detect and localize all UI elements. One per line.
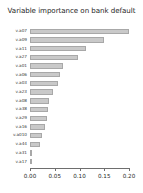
bar: [30, 81, 58, 86]
bar: [30, 89, 53, 94]
plot-area: [30, 27, 129, 166]
bar-row: [30, 89, 129, 94]
bar-row: [30, 46, 129, 51]
x-axis-tick-mark: [104, 168, 105, 171]
bar-row: [30, 142, 129, 147]
y-axis-label: v.a07: [16, 29, 27, 33]
variable-importance-chart: Variable importance on bank default v.a0…: [0, 0, 143, 193]
bar-row: [30, 116, 129, 121]
bar: [30, 63, 63, 68]
bar: [30, 107, 48, 112]
bar-row: [30, 124, 129, 129]
bar-row: [30, 55, 129, 60]
x-axis-tick-label: 0.00: [24, 173, 36, 179]
bar: [30, 159, 32, 164]
y-axis-label: v.a010: [13, 133, 27, 137]
x-axis-tick-mark: [80, 168, 81, 171]
bar: [30, 133, 42, 138]
bar: [30, 150, 32, 155]
bar-row: [30, 159, 129, 164]
bar: [30, 46, 86, 51]
y-axis-label: v.a01: [16, 64, 27, 68]
bar: [30, 55, 78, 60]
x-axis-tick-label: 0.15: [98, 173, 110, 179]
y-axis-label: v.a44: [16, 142, 27, 146]
y-axis-label: v.a03: [16, 81, 27, 85]
y-axis-label: v.a38: [16, 107, 27, 111]
bar-row: [30, 133, 129, 138]
y-axis-label: v.a29: [16, 116, 27, 120]
bar: [30, 98, 49, 103]
bar: [30, 124, 45, 129]
y-axis-label: v.a31: [16, 151, 27, 155]
y-axis-label: v.a11: [16, 47, 27, 51]
x-axis-tick-label: 0.10: [73, 173, 85, 179]
bar-row: [30, 63, 129, 68]
bar-row: [30, 150, 129, 155]
bar-row: [30, 107, 129, 112]
x-axis-tick-mark: [129, 168, 130, 171]
y-axis-label: v.a17: [16, 160, 27, 164]
bar: [30, 116, 47, 121]
chart-title: Variable importance on bank default: [0, 6, 143, 15]
y-axis-label: v.a16: [16, 125, 27, 129]
bar: [30, 142, 40, 147]
y-axis-labels: v.a07v.a09v.a11v.a27v.a01v.a06v.a03v.a23…: [0, 27, 27, 166]
bar-row: [30, 29, 129, 34]
y-axis-label: v.a27: [16, 55, 27, 59]
bar-row: [30, 72, 129, 77]
x-axis-tick-mark: [55, 168, 56, 171]
bar: [30, 72, 60, 77]
y-axis-label: v.a08: [16, 99, 27, 103]
y-axis-label: v.a09: [16, 38, 27, 42]
bar: [30, 29, 129, 34]
bar-row: [30, 37, 129, 42]
bar-row: [30, 81, 129, 86]
x-axis-tick-mark: [30, 168, 31, 171]
y-axis-label: v.a23: [16, 90, 27, 94]
bar: [30, 37, 104, 42]
x-axis-tick-label: 0.20: [123, 173, 135, 179]
x-axis-tick-label: 0.05: [49, 173, 61, 179]
y-axis-label: v.a06: [16, 73, 27, 77]
bar-row: [30, 98, 129, 103]
